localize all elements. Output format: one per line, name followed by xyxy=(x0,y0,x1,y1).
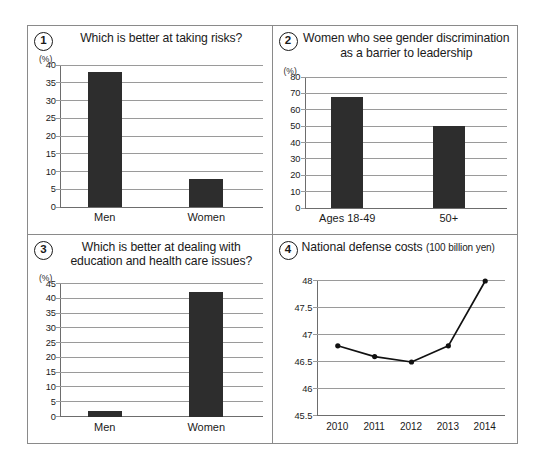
chart-1-plot-area: 0510152025303540MenWomen xyxy=(60,65,263,207)
chart-2-title: Women who see gender discrimination as a… xyxy=(302,31,512,60)
y-tick-label: 0 xyxy=(51,412,56,422)
bar xyxy=(433,126,465,208)
gridline xyxy=(60,386,263,387)
category-label: Women xyxy=(187,211,225,223)
chart-4-title: National defense costs (100 billion yen) xyxy=(302,240,512,256)
y-tick-label: 30 xyxy=(46,323,56,333)
bar xyxy=(331,97,363,208)
y-tick-mark xyxy=(56,136,60,137)
gridline xyxy=(60,327,263,328)
gridline xyxy=(60,357,263,358)
y-tick-label: 45 xyxy=(46,279,56,289)
y-tick-label: 30 xyxy=(46,96,56,106)
bar xyxy=(88,72,122,207)
gridline xyxy=(305,77,508,78)
chart-2-plot-area: 01020304050607080Ages 18-4950+ xyxy=(305,77,508,208)
y-tick-mark xyxy=(301,158,305,159)
chart-1-title-row: 1 Which is better at taking risks? xyxy=(34,31,266,51)
chart-panel-1: 1 Which is better at taking risks? (%) 0… xyxy=(28,26,273,235)
chart-4-title-unit: (100 billion yen) xyxy=(426,242,495,253)
chart-3-plot-area: 051015202530354045MenWomen xyxy=(60,284,263,417)
y-tick-mark xyxy=(56,327,60,328)
y-tick-mark xyxy=(301,191,305,192)
y-tick-mark xyxy=(56,372,60,373)
y-tick-label: 5 xyxy=(51,397,56,407)
y-tick-label: 5 xyxy=(51,184,56,194)
y-tick-mark xyxy=(301,208,305,209)
figure-sheet: 1 Which is better at taking risks? (%) 0… xyxy=(27,25,518,444)
y-tick-label: 40 xyxy=(290,138,300,148)
y-tick-label: 15 xyxy=(46,367,56,377)
chart-2-number: 2 xyxy=(279,32,298,51)
y-tick-mark xyxy=(56,82,60,83)
gridline xyxy=(60,65,263,66)
y-tick-label: 0 xyxy=(295,203,300,213)
x-tick-label: 2014 xyxy=(474,421,496,432)
chart-1-number: 1 xyxy=(34,32,53,51)
gridline xyxy=(60,401,263,402)
gridline xyxy=(60,313,263,314)
y-tick-mark xyxy=(301,77,305,78)
y-tick-label: 20 xyxy=(46,352,56,362)
y-tick-label: 50 xyxy=(290,121,300,131)
category-label: Ages 18-49 xyxy=(319,212,375,224)
y-tick-mark xyxy=(56,207,60,208)
chart-3-number: 3 xyxy=(34,241,53,260)
bar xyxy=(88,411,122,417)
chart-4-title-row: 4 National defense costs (100 billion ye… xyxy=(279,240,512,260)
y-tick-mark xyxy=(56,357,60,358)
gridline xyxy=(60,283,263,284)
y-tick-label: 40 xyxy=(46,60,56,70)
y-tick-mark xyxy=(56,283,60,284)
y-tick-mark xyxy=(56,416,60,417)
x-tick-label: 2010 xyxy=(326,421,348,432)
y-tick-mark xyxy=(56,100,60,101)
y-tick-label: 48 xyxy=(302,276,312,286)
gridline xyxy=(60,372,263,373)
y-tick-mark xyxy=(56,118,60,119)
chart-panel-2: 2 Women who see gender discrimination as… xyxy=(273,26,518,235)
y-tick-mark xyxy=(56,189,60,190)
y-tick-mark xyxy=(301,93,305,94)
chart-2-title-row: 2 Women who see gender discrimination as… xyxy=(279,31,512,60)
y-tick-label: 35 xyxy=(46,78,56,88)
chart-panel-3: 3 Which is better at dealing with educat… xyxy=(28,235,273,444)
bar xyxy=(189,292,223,416)
y-tick-label: 25 xyxy=(46,338,56,348)
y-tick-label: 20 xyxy=(290,170,300,180)
chart-1-title: Which is better at taking risks? xyxy=(57,31,266,46)
y-tick-label: 47 xyxy=(302,330,312,340)
chart-panel-4: 4 National defense costs (100 billion ye… xyxy=(273,235,518,444)
category-label: Men xyxy=(94,421,115,433)
y-tick-mark xyxy=(56,171,60,172)
y-tick-label: 47.5 xyxy=(294,303,312,313)
gridline xyxy=(60,342,263,343)
y-tick-label: 45.5 xyxy=(294,411,312,421)
y-tick-label: 15 xyxy=(46,149,56,159)
y-tick-mark xyxy=(56,65,60,66)
y-tick-label: 46.5 xyxy=(294,357,312,367)
y-tick-label: 35 xyxy=(46,308,56,318)
y-tick-label: 20 xyxy=(46,131,56,141)
chart-4-plot-area: 45.54646.54747.54820102011201220132014 xyxy=(317,281,506,416)
y-tick-mark xyxy=(301,142,305,143)
gridline xyxy=(60,298,263,299)
bar xyxy=(189,179,223,207)
chart-4-title-main: National defense costs xyxy=(302,240,423,254)
y-tick-label: 25 xyxy=(46,113,56,123)
chart-4-number: 4 xyxy=(279,241,298,260)
y-tick-mark xyxy=(56,153,60,154)
y-tick-label: 10 xyxy=(46,167,56,177)
y-tick-mark xyxy=(301,109,305,110)
y-tick-label: 46 xyxy=(302,384,312,394)
y-tick-label: 10 xyxy=(46,382,56,392)
y-tick-mark xyxy=(56,342,60,343)
y-tick-mark xyxy=(56,298,60,299)
category-label: 50+ xyxy=(439,212,458,224)
x-tick-label: 2012 xyxy=(400,421,422,432)
chart-3-title: Which is better at dealing with educatio… xyxy=(57,240,266,269)
y-tick-label: 60 xyxy=(290,105,300,115)
y-tick-label: 0 xyxy=(51,202,56,212)
y-tick-mark xyxy=(301,175,305,176)
chart-3-title-row: 3 Which is better at dealing with educat… xyxy=(34,240,266,269)
